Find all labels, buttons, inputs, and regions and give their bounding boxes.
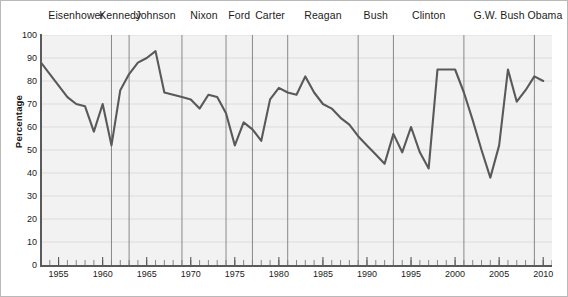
y-axis-tick-label: 20	[27, 214, 41, 224]
y-axis-tick-label: 10	[27, 237, 41, 247]
x-axis-tick-label: 1995	[401, 269, 421, 279]
x-axis-tick-label: 1960	[93, 269, 113, 279]
president-era-label-band: EisenhowerKennedyJohnsonNixonFordCarterR…	[1, 9, 568, 31]
horizontal-gridlines	[41, 35, 552, 242]
x-axis-tick-label: 1980	[269, 269, 289, 279]
chart-figure: EisenhowerKennedyJohnsonNixonFordCarterR…	[0, 0, 568, 297]
x-axis-tick-label: 1955	[49, 269, 69, 279]
president-era-label: Bush	[364, 9, 388, 21]
y-axis-tick-label: 60	[27, 122, 41, 132]
y-axis-spine	[40, 34, 42, 266]
x-axis-tick-label: 1975	[225, 269, 245, 279]
y-axis-tick-label: 50	[27, 145, 41, 155]
president-era-label: Ford	[228, 9, 250, 21]
president-era-label: G.W. Bush	[474, 9, 525, 21]
plot-area	[41, 35, 552, 265]
percentage-data-line	[41, 51, 543, 178]
x-axis-tick-label: 1970	[181, 269, 201, 279]
x-axis-tick-label: 1985	[313, 269, 333, 279]
y-axis-tick-label: 90	[27, 53, 41, 63]
president-era-label: Eisenhower	[48, 9, 104, 21]
president-era-label: Nixon	[190, 9, 217, 21]
y-axis-tick-label: 70	[27, 99, 41, 109]
y-axis-tick-label: 30	[27, 191, 41, 201]
president-era-label: Johnson	[135, 9, 175, 21]
x-axis-spine	[40, 265, 552, 267]
x-axis-tick-label: 2000	[445, 269, 465, 279]
x-axis-tick-label: 1990	[357, 269, 377, 279]
x-axis-tick-label: 2005	[489, 269, 509, 279]
y-axis-tick-labels: 0102030405060708090100	[1, 1, 41, 297]
president-era-label: Clinton	[412, 9, 445, 21]
x-axis-major-ticks	[59, 257, 544, 265]
x-axis-tick-label: 1965	[137, 269, 157, 279]
president-era-label: Reagan	[304, 9, 341, 21]
line-chart-svg	[41, 35, 552, 265]
y-axis-tick-label: 40	[27, 168, 41, 178]
x-axis-tick-labels: 1955196019651970197519801985199019952000…	[1, 269, 568, 283]
y-axis-tick-label: 80	[27, 76, 41, 86]
president-era-label: Carter	[255, 9, 285, 21]
x-axis-tick-label: 2010	[533, 269, 553, 279]
y-axis-tick-label: 100	[22, 30, 41, 40]
president-era-label: Obama	[527, 9, 562, 21]
